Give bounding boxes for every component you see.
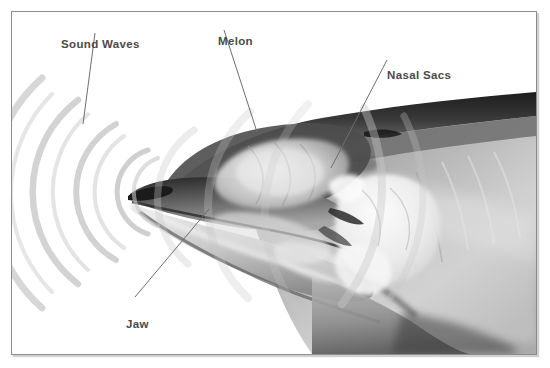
label-sound-waves: Sound Waves <box>61 39 140 51</box>
label-nasal-sacs: Nasal Sacs <box>387 70 451 82</box>
figure-plate: Sound Waves Melon Nasal Sacs Jaw <box>11 11 537 355</box>
label-jaw: Jaw <box>126 319 149 331</box>
echolocation-figure: Sound Waves Melon Nasal Sacs Jaw <box>0 0 550 368</box>
dolphin-illustration <box>12 12 536 354</box>
label-melon: Melon <box>218 36 253 48</box>
